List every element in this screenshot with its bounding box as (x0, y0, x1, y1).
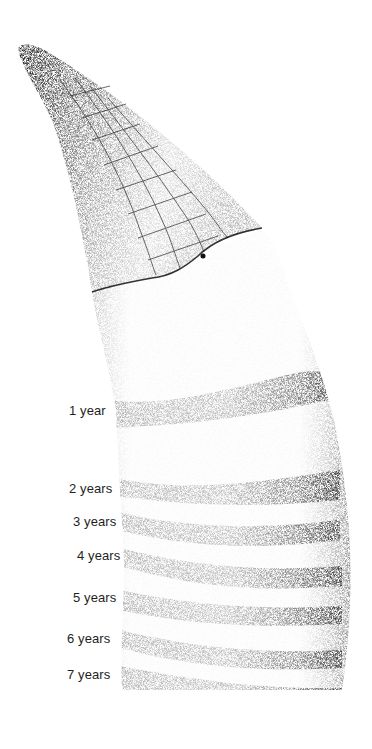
age-label-4-years: 4 years (77, 549, 120, 562)
tooth-illustration (0, 0, 372, 749)
age-label-5-years: 5 years (73, 591, 116, 604)
tooth-root (92, 230, 351, 690)
age-label-1-year: 1 year (69, 404, 106, 417)
age-label-2-years: 2 years (69, 482, 112, 495)
junction-mark (201, 254, 206, 259)
age-label-6-years: 6 years (67, 632, 110, 645)
age-label-3-years: 3 years (73, 515, 116, 528)
age-label-7-years: 7 years (67, 668, 110, 681)
